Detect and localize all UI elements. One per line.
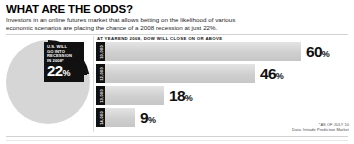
source-note: *AS OF JULY 10 Data: Intrade Prediction … xyxy=(292,122,349,132)
bar-row: 12,00046% xyxy=(96,64,352,83)
bar-value: 9% xyxy=(140,109,156,129)
pie-callout: U.S. WILL GO INTO RECESSION IN 2008* 22% xyxy=(44,42,84,82)
bar-percent-symbol: % xyxy=(276,71,284,81)
bar-percent-symbol: % xyxy=(148,115,156,125)
bar-category-tag: 12,000 xyxy=(96,64,105,83)
panel-divider xyxy=(93,36,94,132)
bar-value: 18% xyxy=(169,87,193,107)
footer-divider xyxy=(6,136,348,137)
page-deck: Investors in an online futures market th… xyxy=(6,16,250,32)
bar-value-number: 9 xyxy=(140,109,148,126)
pie-value-number: 22 xyxy=(47,62,63,79)
infographic-root: WHAT ARE THE ODDS? Investors in an onlin… xyxy=(0,0,354,144)
bar-fill xyxy=(105,42,301,61)
bar-category-tag: 14,000 xyxy=(96,108,105,127)
source-line-2: Data: Intrade Prediction Market xyxy=(292,127,349,132)
bar-row: 13,00018% xyxy=(96,86,352,105)
bar-value-number: 60 xyxy=(306,43,322,60)
bar-category-label: 12,000 xyxy=(98,67,103,81)
pie-chart: U.S. WILL GO INTO RECESSION IN 2008* 22% xyxy=(6,40,90,124)
bar-value: 46% xyxy=(260,65,284,85)
header-divider xyxy=(6,34,348,35)
page-title: WHAT ARE THE ODDS? xyxy=(6,3,133,15)
bar-category-label: 14,000 xyxy=(98,111,103,125)
bar-chart-rows: 10,00060%12,00046%13,00018%14,0009% xyxy=(96,42,352,130)
bar-category-label: 13,000 xyxy=(98,89,103,103)
bar-chart-panel: AT YEAREND 2008, DOW WILL CLOSE ON OR AB… xyxy=(96,36,352,134)
bar-percent-symbol: % xyxy=(185,93,193,103)
pie-value: 22% xyxy=(47,63,70,81)
footer-divider-secondary xyxy=(6,140,348,141)
pie-chart-panel: U.S. WILL GO INTO RECESSION IN 2008* 22% xyxy=(2,36,94,134)
bar-fill xyxy=(105,64,255,83)
pie-percent-symbol: % xyxy=(63,68,71,78)
bar-category-tag: 10,000 xyxy=(96,42,105,61)
bar-chart-title: AT YEAREND 2008, DOW WILL CLOSE ON OR AB… xyxy=(97,36,222,41)
bar-percent-symbol: % xyxy=(322,49,330,59)
bar-value-number: 18 xyxy=(169,87,185,104)
bar-fill xyxy=(105,108,135,127)
bar-value-number: 46 xyxy=(260,65,276,82)
bar-fill xyxy=(105,86,164,105)
bar-category-label: 10,000 xyxy=(98,45,103,59)
bar-value: 60% xyxy=(306,43,330,63)
bar-category-tag: 13,000 xyxy=(96,86,105,105)
bar-row: 10,00060% xyxy=(96,42,352,61)
